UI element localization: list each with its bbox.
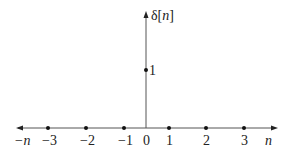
sample-dot-n1 [167, 126, 171, 130]
right-arrow-icon [271, 126, 278, 131]
sample-dot-n-2 [84, 126, 88, 130]
axis-end-right-label: n [265, 133, 272, 148]
tick-label-3: 3 [241, 133, 248, 148]
up-arrow-icon [144, 11, 149, 18]
tick-label-0: 0 [143, 133, 150, 148]
impulse-diagram: δ[n] 1 −n −3 −2 −1 0 1 2 3 n [0, 0, 287, 150]
sample-dot-n2 [204, 126, 208, 130]
tick-label-n-1: −1 [118, 133, 133, 148]
sample-dot-n-3 [46, 126, 50, 130]
axis-end-left-label: −n [14, 133, 30, 148]
impulse-value-label: 1 [149, 63, 156, 78]
sample-dot-n3 [242, 126, 246, 130]
sample-dot-n-1 [122, 126, 126, 130]
left-arrow-icon [16, 126, 23, 131]
tick-label-2: 2 [203, 133, 210, 148]
tick-label-1: 1 [166, 133, 173, 148]
impulse-dot [144, 68, 148, 72]
function-label: δ[n] [151, 8, 174, 23]
tick-label-n-3: −3 [42, 133, 57, 148]
tick-label-n-2: −2 [80, 133, 95, 148]
